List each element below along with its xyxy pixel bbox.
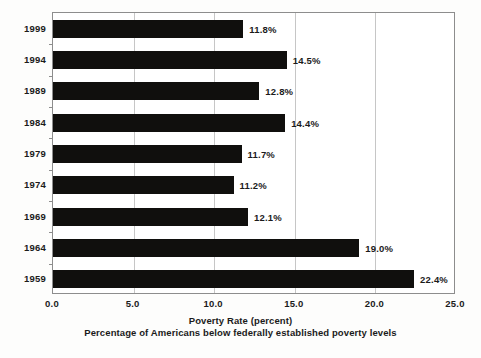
- x-axis-tick-label: 5.0: [126, 298, 140, 309]
- bar-row: 11.8%: [53, 20, 456, 38]
- chart-captions: Poverty Rate (percent) Percentage of Ame…: [0, 315, 481, 339]
- y-axis-tick: [49, 76, 53, 77]
- bar-row: 19.0%: [53, 239, 456, 257]
- bar-value-label: 22.4%: [420, 274, 448, 285]
- bar-value-label: 11.2%: [240, 180, 267, 191]
- bar-row: 14.5%: [53, 51, 456, 69]
- y-axis-tick: [49, 170, 53, 171]
- y-axis-label: 1959: [0, 273, 46, 284]
- bar-value-label: 19.0%: [365, 243, 393, 254]
- bar: [53, 208, 248, 226]
- bar-value-label: 11.7%: [248, 149, 275, 160]
- y-axis-label: 1989: [0, 85, 46, 96]
- y-axis-tick: [49, 138, 53, 139]
- y-axis-tick: [49, 107, 53, 108]
- bar-row: 11.7%: [53, 145, 456, 163]
- bar: [53, 51, 287, 69]
- plot-area: 11.8%14.5%12.8%14.4%11.7%11.2%12.1%19.0%…: [52, 12, 455, 294]
- x-axis-tick-label: 0.0: [45, 298, 59, 309]
- y-axis-tick: [49, 44, 53, 45]
- bar-value-label: 14.5%: [293, 55, 321, 66]
- y-axis-label: 1999: [0, 22, 46, 33]
- bar-value-label: 14.4%: [291, 117, 319, 128]
- bar: [53, 145, 242, 163]
- bar-row: 12.1%: [53, 208, 456, 226]
- bar-row: 14.4%: [53, 114, 456, 132]
- x-axis-tick-label: 15.0: [284, 298, 303, 309]
- bar: [53, 82, 259, 100]
- y-axis-label: 1969: [0, 210, 46, 221]
- bar: [53, 270, 414, 288]
- bar: [53, 176, 234, 194]
- y-axis-label: 1979: [0, 148, 46, 159]
- y-axis-label: 1994: [0, 54, 46, 65]
- y-axis-tick: [49, 201, 53, 202]
- bar: [53, 114, 285, 132]
- y-axis-label: 1974: [0, 179, 46, 190]
- bar-value-label: 11.8%: [249, 23, 276, 34]
- y-axis-label: 1984: [0, 116, 46, 127]
- x-axis-tick-label: 10.0: [204, 298, 223, 309]
- bar-value-label: 12.8%: [265, 86, 293, 97]
- x-axis-tick-label: 25.0: [445, 298, 464, 309]
- bar-row: 12.8%: [53, 82, 456, 100]
- x-axis-title: Poverty Rate (percent): [0, 315, 481, 327]
- y-axis-tick: [49, 264, 53, 265]
- poverty-rate-bar-chart: 11.8%14.5%12.8%14.4%11.7%11.2%12.1%19.0%…: [0, 0, 481, 358]
- y-axis-category-labels: 199919941989198419791974196919641959: [0, 12, 46, 294]
- bar: [53, 239, 359, 257]
- y-axis-tick: [49, 232, 53, 233]
- bar: [53, 20, 243, 38]
- y-axis-label: 1964: [0, 242, 46, 253]
- bar-row: 22.4%: [53, 270, 456, 288]
- bar-value-label: 12.1%: [254, 211, 282, 222]
- bar-row: 11.2%: [53, 176, 456, 194]
- x-axis-tick-labels: 0.05.010.015.020.025.0: [52, 298, 455, 312]
- x-axis-tick-label: 20.0: [365, 298, 384, 309]
- chart-subtitle: Percentage of Americans below federally …: [0, 327, 481, 339]
